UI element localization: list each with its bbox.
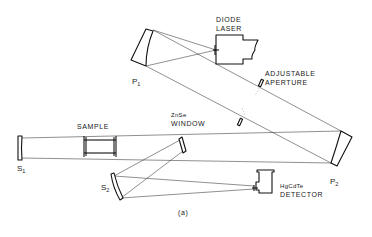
aperture-label-line2: APERTURE (265, 79, 308, 86)
window-label-line2: WINDOW (171, 120, 205, 127)
diode-laser-label-line1: DIODE (216, 16, 241, 23)
p1-mirror: P1 (131, 29, 153, 87)
sample-cell: SAMPLE (77, 123, 116, 157)
diode-laser: DIODE LASER (213, 16, 258, 64)
diode-laser-label-line2: LASER (216, 25, 242, 32)
detector-label-line2: DETECTOR (280, 191, 323, 198)
hgcdte-detector: HgCdTe DETECTOR (252, 170, 323, 198)
window-label-line1: ZnSe (171, 112, 187, 118)
sample-label: SAMPLE (77, 123, 109, 130)
figure-caption: (a) (178, 209, 188, 217)
aperture-blade-upper (258, 79, 263, 86)
p2-mirror: P2 (330, 131, 352, 187)
detector-label-line1: HgCdTe (280, 183, 304, 189)
optical-setup-diagram: P1 DIODE LASER ADJUSTABLE APERTURE P2 S1… (0, 0, 372, 237)
s2-label: S2 (101, 183, 109, 193)
s1-mirror: S1 (17, 136, 25, 174)
p2-label: P2 (330, 177, 338, 187)
aperture-blade-lower (237, 118, 242, 125)
znse-window: ZnSe WINDOW (171, 112, 205, 153)
aperture-label-line1: ADJUSTABLE (265, 70, 316, 77)
p1-label: P1 (132, 77, 140, 87)
adjustable-aperture: ADJUSTABLE APERTURE (237, 70, 315, 126)
s2-mirror: S2 (101, 173, 123, 200)
s1-label: S1 (17, 164, 25, 174)
